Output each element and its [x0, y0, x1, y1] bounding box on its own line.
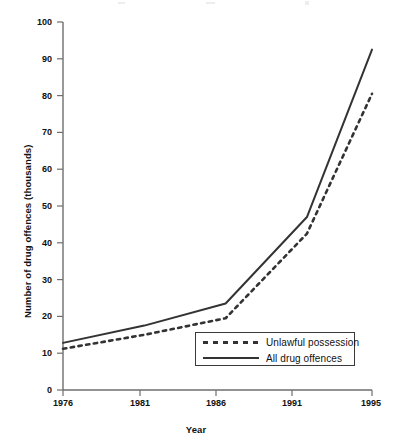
plot-area — [0, 0, 403, 443]
y-axis-ticks — [57, 22, 63, 390]
x-axis-ticks — [63, 390, 372, 396]
legend-label-unlawful-possession: Unlawful possession — [266, 337, 359, 348]
legend-label-all-drug-offences: All drug offences — [266, 353, 342, 364]
legend-item-unlawful-possession: Unlawful possession — [196, 334, 354, 350]
chart-legend: Unlawful possession All drug offences — [195, 332, 355, 366]
series-line-unlawful-possession — [63, 94, 372, 349]
series-line-all-drug-offences — [63, 50, 372, 343]
line-chart: Number of drug offences (thousands) Year… — [0, 0, 403, 443]
legend-item-all-drug-offences: All drug offences — [196, 350, 354, 366]
data-series-layer — [63, 50, 372, 349]
legend-swatch-dotted — [203, 336, 259, 348]
legend-swatch-solid — [203, 352, 259, 364]
